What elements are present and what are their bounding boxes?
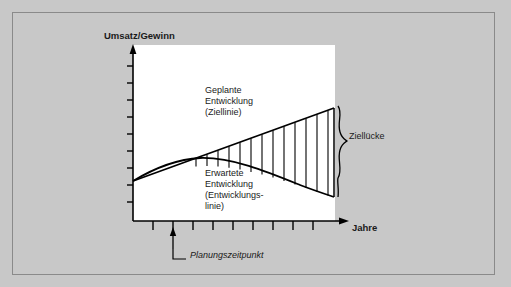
planning-point-label: Planungszeitpunkt	[190, 250, 264, 261]
planning-point-leader-line	[173, 249, 186, 259]
gap-brace	[338, 106, 347, 197]
x-axis-ticks	[153, 221, 313, 230]
gap-analysis-chart	[0, 0, 511, 287]
diagram-canvas: Umsatz/Gewinn Jahre Geplante Entwicklung…	[0, 0, 511, 287]
y-axis-ticks	[127, 66, 133, 202]
gap-label: Ziellücke	[349, 131, 385, 142]
expected-development-label: Erwartete Entwicklung (Entwicklungs- lin…	[205, 168, 264, 212]
planning-point-marker	[170, 227, 176, 249]
planned-development-label: Geplante Entwicklung (Ziellinie)	[205, 85, 253, 118]
y-axis-title: Umsatz/Gewinn	[104, 30, 175, 41]
x-axis-title: Jahre	[352, 222, 377, 233]
x-axis-arrowhead	[339, 218, 349, 225]
